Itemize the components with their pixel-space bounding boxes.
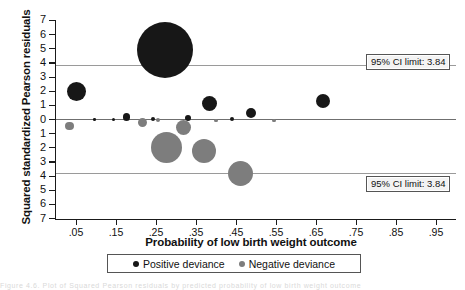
data-bubble (176, 120, 191, 135)
data-bubble (156, 118, 160, 122)
x-tick (396, 220, 397, 225)
x-tick-label: .75 (336, 226, 376, 238)
ci-limit-upper-label: 95% CI limit: 3.84 (366, 54, 450, 70)
y-tick-label: 3 (26, 71, 46, 82)
x-tick (356, 220, 357, 225)
y-tick (49, 48, 55, 49)
data-bubble (214, 119, 218, 123)
y-tick (49, 105, 55, 106)
ci-reference-line (56, 173, 456, 174)
y-tick (49, 91, 55, 92)
caption-fragment: Figure 4.6. Plot of Squared Pearson resi… (0, 282, 465, 290)
x-tick-label: .05 (56, 226, 96, 238)
scatter-chart: Squared standardized Pearson residuals P… (0, 0, 465, 290)
y-tick-label: 3 (26, 156, 46, 167)
y-tick-label: 0 (26, 114, 46, 125)
data-bubble (230, 117, 234, 121)
data-bubble (316, 94, 330, 108)
y-tick-label: 2 (26, 85, 46, 96)
legend-label: Negative deviance (249, 258, 335, 270)
x-tick-label: .55 (256, 226, 296, 238)
legend-marker-icon (239, 261, 245, 267)
y-tick-label: 6 (26, 29, 46, 40)
legend-item: Negative deviance (239, 258, 335, 270)
legend-label: Positive deviance (143, 258, 225, 270)
data-bubble (138, 118, 147, 127)
y-tick-label: 5 (26, 184, 46, 195)
data-bubble (151, 132, 182, 163)
x-tick (436, 220, 437, 225)
data-bubble (228, 161, 253, 186)
data-bubble (137, 22, 193, 78)
y-tick (49, 161, 55, 162)
y-tick (49, 20, 55, 21)
x-tick (316, 220, 317, 225)
x-tick-label: .45 (216, 226, 256, 238)
y-tick (49, 34, 55, 35)
x-tick-label: .65 (296, 226, 336, 238)
x-tick-label: .35 (176, 226, 216, 238)
y-tick (49, 204, 55, 205)
data-bubble (151, 117, 155, 121)
y-tick-label: 7 (26, 14, 46, 25)
y-tick (49, 147, 55, 148)
y-tick (49, 190, 55, 191)
x-tick (276, 220, 277, 225)
x-tick-label: .25 (136, 226, 176, 238)
y-tick (49, 62, 55, 63)
x-tick (196, 220, 197, 225)
x-tick (156, 220, 157, 225)
x-tick-label: .95 (416, 226, 456, 238)
zero-reference-line (56, 119, 456, 120)
ci-limit-lower-label: 95% CI limit: 3.84 (366, 176, 450, 192)
chart-legend: Positive devianceNegative deviance (107, 254, 361, 273)
y-tick-label: 4 (26, 170, 46, 181)
data-bubble (65, 122, 73, 130)
data-bubble (67, 82, 86, 101)
data-bubble (192, 139, 216, 163)
legend-item: Positive deviance (133, 258, 225, 270)
data-bubble (112, 118, 115, 121)
x-tick-label: .85 (376, 226, 416, 238)
y-tick-label: 1 (26, 99, 46, 110)
y-tick-label: 2 (26, 142, 46, 153)
data-bubble (93, 118, 96, 121)
y-tick-label: 5 (26, 43, 46, 54)
y-tick-label: 4 (26, 57, 46, 68)
y-tick-label: 6 (26, 198, 46, 209)
data-bubble (272, 119, 275, 122)
y-tick (49, 133, 55, 134)
y-tick-label: 1 (26, 128, 46, 139)
x-tick (236, 220, 237, 225)
y-tick (49, 218, 55, 219)
x-tick (76, 220, 77, 225)
y-tick (49, 77, 55, 78)
y-tick (49, 176, 55, 177)
data-bubble (123, 113, 130, 120)
x-tick (116, 220, 117, 225)
data-bubble (246, 108, 256, 118)
data-bubble (202, 96, 217, 111)
y-tick-label: 7 (26, 213, 46, 224)
x-tick-label: .15 (96, 226, 136, 238)
legend-marker-icon (133, 261, 139, 267)
y-tick (49, 119, 55, 120)
